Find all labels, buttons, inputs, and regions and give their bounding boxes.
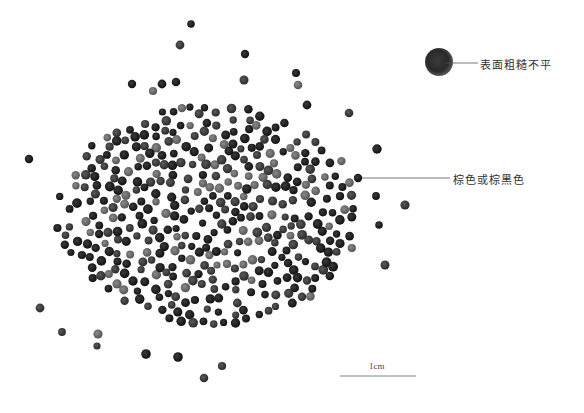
seed xyxy=(210,285,218,293)
seed xyxy=(210,320,218,328)
seed xyxy=(213,212,220,219)
seed xyxy=(248,277,256,285)
seed xyxy=(304,212,312,220)
seed xyxy=(141,120,149,128)
seed xyxy=(263,180,272,189)
seed xyxy=(298,293,306,301)
seed xyxy=(195,205,203,213)
seed xyxy=(288,222,295,229)
seed xyxy=(159,108,166,115)
seed xyxy=(252,121,261,130)
seed xyxy=(177,122,185,130)
seed xyxy=(239,271,249,281)
seed xyxy=(89,274,97,282)
seed xyxy=(101,163,109,171)
seed xyxy=(172,135,181,144)
seed xyxy=(156,293,164,301)
seed xyxy=(326,223,333,230)
seed xyxy=(105,182,115,192)
seed xyxy=(311,263,319,271)
seed xyxy=(195,109,204,118)
seed xyxy=(169,273,177,281)
seed xyxy=(150,217,157,224)
seed xyxy=(242,184,252,194)
seed xyxy=(103,151,111,159)
seed xyxy=(333,230,340,237)
seed xyxy=(272,169,282,179)
seed xyxy=(240,202,249,211)
seed xyxy=(128,80,136,88)
seed xyxy=(191,296,199,304)
seed xyxy=(140,277,149,286)
seed xyxy=(120,200,129,209)
seed xyxy=(199,171,207,179)
seed xyxy=(145,236,153,244)
seed xyxy=(163,268,171,276)
seed xyxy=(120,150,129,159)
seed xyxy=(258,256,265,263)
seed xyxy=(109,214,118,223)
seed xyxy=(181,142,191,152)
seed xyxy=(345,232,354,241)
seed xyxy=(261,291,269,299)
seed xyxy=(311,274,319,282)
seed xyxy=(152,198,159,205)
seed xyxy=(195,248,204,257)
seed xyxy=(212,247,221,256)
seed xyxy=(274,277,282,285)
seed xyxy=(240,193,248,201)
seed xyxy=(172,78,181,87)
seed xyxy=(256,311,263,318)
seed xyxy=(56,193,63,200)
seed xyxy=(281,181,291,191)
seed xyxy=(170,150,178,158)
seed xyxy=(332,173,339,180)
seed xyxy=(169,129,176,136)
seed xyxy=(333,248,341,256)
seed xyxy=(293,138,300,145)
seed xyxy=(248,144,256,152)
seed xyxy=(200,317,208,325)
seed xyxy=(182,269,191,278)
seed xyxy=(264,233,273,242)
seed xyxy=(118,176,127,185)
seed xyxy=(319,208,327,216)
annotation-surface: 表面粗糙不平 xyxy=(480,56,552,72)
seed xyxy=(302,258,309,265)
seed xyxy=(199,179,207,187)
seed xyxy=(400,200,409,209)
seed xyxy=(326,272,335,281)
seed xyxy=(268,247,277,256)
seed xyxy=(203,119,212,128)
seed xyxy=(283,273,292,282)
seed xyxy=(326,158,335,167)
seed xyxy=(249,202,258,211)
seed xyxy=(233,299,242,308)
seed xyxy=(66,223,73,230)
seed xyxy=(288,299,297,308)
seed xyxy=(345,109,354,118)
seed xyxy=(87,164,96,173)
seed xyxy=(292,69,300,77)
seed xyxy=(311,187,320,196)
seed xyxy=(170,108,178,116)
seed xyxy=(308,285,316,293)
seed xyxy=(118,213,126,221)
seed xyxy=(230,116,237,123)
seed xyxy=(304,235,313,244)
seed xyxy=(262,223,271,232)
seed xyxy=(241,50,249,58)
seed xyxy=(188,318,198,328)
seed xyxy=(237,214,245,222)
seed xyxy=(173,352,183,362)
seed xyxy=(145,149,155,159)
seed xyxy=(248,255,258,265)
seed xyxy=(173,307,182,316)
seed xyxy=(232,312,239,319)
seed xyxy=(294,163,302,171)
seed xyxy=(166,178,175,187)
seed xyxy=(148,256,155,263)
seed xyxy=(176,158,185,167)
seed xyxy=(293,177,302,186)
seed xyxy=(72,198,82,208)
